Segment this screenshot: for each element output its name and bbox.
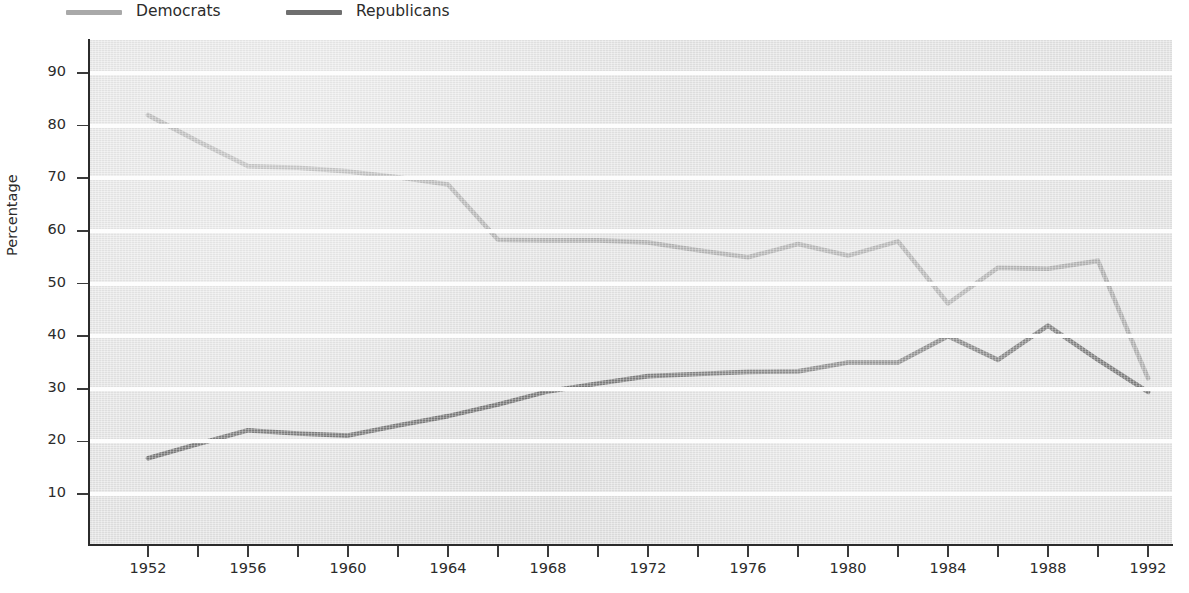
y-tick-label-30: 30 [48, 379, 66, 395]
x-tick-1984 [947, 546, 949, 557]
plot-area [89, 40, 1172, 545]
series-lines [89, 40, 1172, 545]
x-tick-label-1964: 1964 [430, 560, 467, 576]
gridline-30 [89, 387, 1172, 391]
legend-label-democrats: Democrats [136, 4, 221, 20]
chart-legend: Democrats Republicans [0, 0, 1189, 24]
legend-item-democrats[interactable]: Democrats [66, 0, 221, 24]
y-tick-label-40: 40 [48, 326, 66, 342]
series-line-democrats [148, 115, 1148, 378]
x-tick-1988 [1047, 546, 1049, 557]
x-tick-1960 [347, 546, 349, 557]
y-tick-label-20: 20 [48, 431, 66, 447]
x-tick-label-1988: 1988 [1030, 560, 1067, 576]
chart-figure: Democrats Republicans Percentage 9080706… [0, 0, 1189, 593]
x-tick-1980 [847, 546, 849, 557]
x-tick-1958 [297, 546, 299, 557]
gridline-70 [89, 176, 1172, 180]
y-tick-10 [77, 493, 88, 495]
y-tick-90 [77, 72, 88, 74]
y-tick-label-90: 90 [48, 63, 66, 79]
x-tick-1956 [247, 546, 249, 557]
x-tick-1964 [447, 546, 449, 557]
y-axis-line [88, 39, 90, 546]
gridline-20 [89, 439, 1172, 443]
x-tick-1986 [997, 546, 999, 557]
x-tick-label-1984: 1984 [930, 560, 967, 576]
y-axis-title: Percentage [4, 236, 20, 256]
gridline-60 [89, 229, 1172, 233]
x-tick-1976 [747, 546, 749, 557]
x-tick-1974 [697, 546, 699, 557]
y-tick-label-70: 70 [48, 168, 66, 184]
x-tick-label-1980: 1980 [830, 560, 867, 576]
y-tick-50 [77, 283, 88, 285]
gridline-10 [89, 492, 1172, 496]
y-tick-70 [77, 177, 88, 179]
legend-swatch-republicans [286, 10, 342, 15]
legend-swatch-democrats [66, 10, 122, 15]
gridline-80 [89, 124, 1172, 128]
x-tick-1992 [1147, 546, 1149, 557]
y-tick-60 [77, 230, 88, 232]
gridline-90 [89, 71, 1172, 75]
series-line-republicans [148, 326, 1148, 459]
x-tick-label-1976: 1976 [730, 560, 767, 576]
legend-item-republicans[interactable]: Republicans [286, 0, 450, 24]
y-tick-label-60: 60 [48, 221, 66, 237]
x-tick-1966 [497, 546, 499, 557]
gridline-40 [89, 334, 1172, 338]
x-tick-1954 [197, 546, 199, 557]
y-tick-label-50: 50 [48, 274, 66, 290]
x-tick-label-1968: 1968 [530, 560, 567, 576]
y-tick-40 [77, 335, 88, 337]
x-tick-1978 [797, 546, 799, 557]
x-tick-label-1960: 1960 [330, 560, 367, 576]
x-tick-1982 [897, 546, 899, 557]
x-tick-label-1952: 1952 [130, 560, 167, 576]
x-tick-1972 [647, 546, 649, 557]
y-tick-label-10: 10 [48, 484, 66, 500]
x-tick-1962 [397, 546, 399, 557]
x-tick-1970 [597, 546, 599, 557]
x-tick-1990 [1097, 546, 1099, 557]
gridline-50 [89, 282, 1172, 286]
y-tick-80 [77, 125, 88, 127]
x-axis-line [88, 544, 1173, 546]
y-axis-title-text: Percentage [4, 236, 20, 256]
y-tick-30 [77, 388, 88, 390]
x-tick-1952 [147, 546, 149, 557]
y-tick-label-80: 80 [48, 116, 66, 132]
x-tick-1968 [547, 546, 549, 557]
x-tick-label-1992: 1992 [1130, 560, 1167, 576]
x-tick-label-1956: 1956 [230, 560, 267, 576]
x-tick-label-1972: 1972 [630, 560, 667, 576]
legend-label-republicans: Republicans [356, 4, 450, 20]
y-tick-20 [77, 441, 88, 443]
